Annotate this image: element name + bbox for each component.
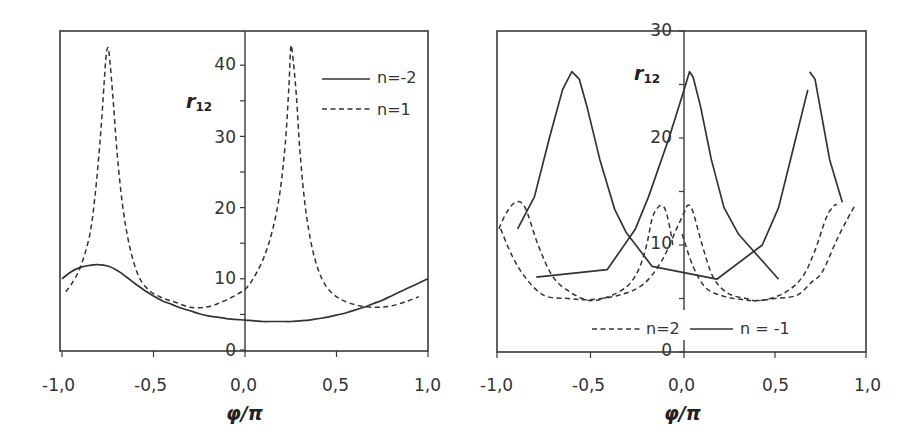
x-tick-label-0: 0,0	[230, 375, 257, 395]
x-tick-label-0: 0,0	[668, 375, 695, 395]
x-tick-label-neg05: -0,5	[572, 375, 605, 395]
legend-label-dashed: n=2	[646, 319, 680, 338]
x-tick-label-1: 1,0	[414, 375, 441, 395]
y-axis-title: r12	[186, 90, 212, 114]
series-line-n-minus-1	[810, 72, 843, 203]
legend-label-solid: n = -1	[740, 319, 790, 338]
x-tick-label-neg1: -1,0	[480, 375, 513, 395]
x-tick-label-05: 0,5	[762, 375, 789, 395]
legend-label-solid: n=-2	[377, 68, 417, 87]
y-tick-label-40: 40	[196, 54, 236, 74]
x-tick-label-neg05: -0,5	[134, 375, 167, 395]
y-tick-label-0: 0	[632, 340, 672, 360]
y-tick-label-10: 10	[196, 268, 236, 288]
y-tick-label-20: 20	[196, 198, 236, 218]
y-tick-label-10: 10	[632, 233, 672, 253]
y-tick-label-30: 30	[632, 20, 672, 40]
x-tick-label-05: 0,5	[322, 375, 349, 395]
chart-left: 40 30 20 10 0 r12 -1,0 -0,5 0,0 0,5 1,0 …	[0, 0, 462, 443]
x-axis-title: φ/π	[226, 402, 263, 424]
series-line-n-1	[66, 45, 419, 308]
x-tick-label-neg1: -1,0	[42, 375, 75, 395]
chart-right: 30 20 10 0 r12 -1,0 -0,5 0,0 0,5 1,0 φ/π…	[462, 0, 924, 443]
y-tick-label-0: 0	[196, 340, 236, 360]
x-axis-title: φ/π	[664, 402, 701, 424]
y-tick-label-20: 20	[632, 127, 672, 147]
x-tick-label-1: 1,0	[854, 375, 881, 395]
y-axis-title: r12	[634, 62, 660, 86]
series-line-n-2	[682, 205, 855, 300]
y-tick-label-30: 30	[196, 127, 236, 147]
legend-label-dashed: n=1	[377, 100, 411, 119]
